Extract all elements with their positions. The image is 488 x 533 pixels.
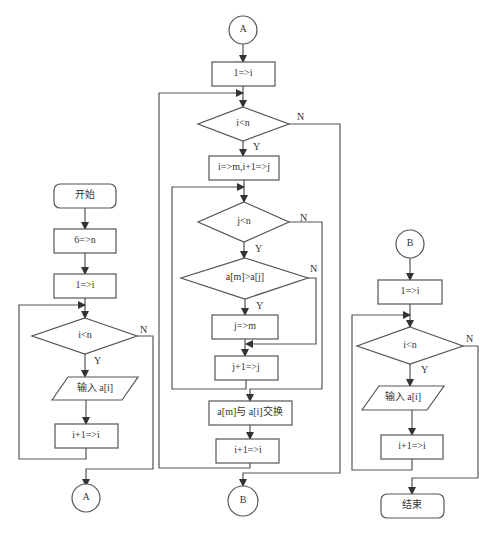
process-init-i-label: 1=>i [75, 279, 94, 290]
no-label-inner: N [300, 212, 307, 223]
decision-j-lt-n-label: j<n [236, 215, 250, 226]
yes-label: Y [421, 364, 428, 375]
output-io-label: 输入 a[i] [385, 390, 421, 402]
process-increment-i-label: i+1=>i [398, 440, 426, 451]
process-increment-i-label: i+1=>i [72, 429, 100, 440]
yes-label-outer: Y [253, 141, 260, 152]
connector-a-in-label: A [239, 23, 247, 34]
yes-label-compare: Y [256, 300, 263, 311]
flowchart-output-array: B 1=>i i<n N Y 输入 a[i] i+1=>i 结束 [352, 230, 478, 518]
start-label: 开始 [75, 188, 95, 200]
process-increment-i-label: i+1=>i [234, 444, 262, 455]
process-assign-m-label: j=>m [233, 320, 256, 331]
process-increment-j-label: j+1=>j [231, 361, 259, 372]
yes-label-inner: Y [255, 243, 262, 254]
flowchart-input-array: 开始 6=>n 1=>i i<n N Y 输入 a[i] i+1=>i A [19, 184, 153, 512]
end-label: 结束 [402, 498, 422, 510]
process-init-m-j-label: i=>m,i+1=>j [218, 161, 270, 172]
process-init-i-label: 1=>i [233, 67, 252, 78]
flowchart-canvas: 开始 6=>n 1=>i i<n N Y 输入 a[i] i+1=>i A A … [0, 0, 488, 533]
connector-b-out-label: B [240, 494, 247, 505]
decision-i-lt-n-label: i<n [403, 339, 416, 350]
connector-a-out-label: A [82, 491, 90, 502]
process-swap-label: a[m]与 a[i]交换 [217, 405, 282, 417]
yes-label: Y [94, 355, 101, 366]
decision-compare-label: a[m]>a[j] [226, 271, 264, 282]
input-io-label: 输入 a[i] [77, 381, 113, 393]
process-set-n-label: 6=>n [74, 234, 95, 245]
process-init-i-label: 1=>i [400, 285, 419, 296]
flowchart-selection-sort: A 1=>i i<n N Y i=>m,i+1=>j j<n N Y a[m]>… [159, 16, 340, 516]
decision-outer-label: i<n [236, 117, 249, 128]
connector-b-in-label: B [407, 237, 414, 248]
no-label: N [140, 324, 147, 335]
no-label-outer: N [297, 111, 304, 122]
no-label-compare: N [310, 263, 317, 274]
no-label: N [466, 333, 473, 344]
decision-i-lt-n-label: i<n [78, 329, 91, 340]
